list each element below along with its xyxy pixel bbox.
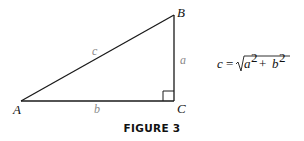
vertex-label-b: B [177,5,185,20]
hypotenuse-c [21,15,174,101]
formula-b: b [272,56,279,71]
vertex-label-a: A [12,102,21,117]
right-angle-marker [163,91,174,101]
side-label-a: a [180,53,186,67]
triangle [21,15,174,101]
formula-exp-a: 2 [251,50,258,65]
right-triangle-diagram: A B C c b a c = a 2 + b 2 [0,0,304,141]
vertex-label-c: C [177,101,186,116]
formula-equals: = [226,56,233,71]
side-label-b: b [94,102,100,116]
formula-c: c [217,56,223,71]
figure-caption: FIGURE 3 [0,122,304,134]
side-label-c: c [92,44,98,58]
formula-exp-b: 2 [279,50,286,65]
pythagorean-formula: c = a 2 + b 2 [217,50,290,71]
formula-plus: + [259,56,266,71]
formula-a: a [244,56,251,71]
